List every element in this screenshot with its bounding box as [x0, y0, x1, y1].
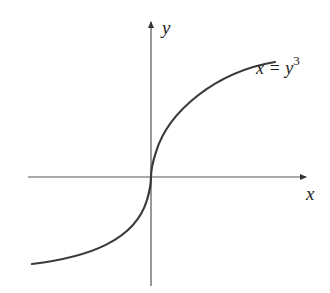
curve-label-exponent: 3 [293, 53, 300, 68]
curve-x-equals-y-cubed [32, 62, 275, 264]
plot-canvas [0, 0, 330, 293]
y-axis-label: y [162, 17, 170, 39]
curve-label: x = y3 [256, 55, 300, 79]
x-axis-label: x [306, 183, 314, 205]
curve-label-base: x = y [256, 58, 293, 78]
